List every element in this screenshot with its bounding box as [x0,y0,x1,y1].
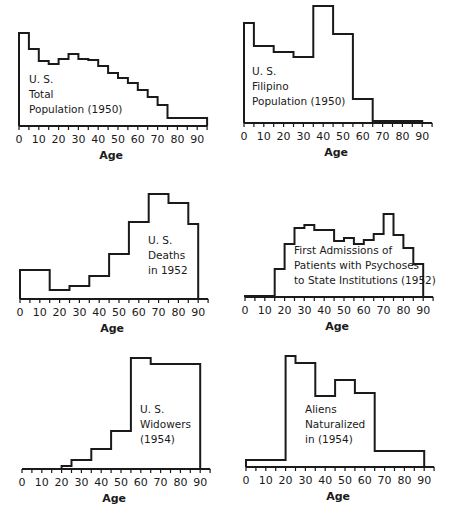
x-tick-label: 60 [357,304,371,317]
x-axis-title: Age [102,492,126,505]
x-tick-label: 90 [417,474,431,487]
x-tick-label: 50 [337,304,351,317]
chart-caption-line: (1954) [140,432,191,447]
x-axis-title: Age [325,320,349,333]
chart-caption-line: Deaths [148,248,188,263]
psychoses-admissions-histogram: 0102030405060708090AgeFirst Admissions o… [225,180,449,350]
x-tick-label: 10 [259,474,273,487]
x-tick-label: 50 [114,476,128,489]
x-tick-label: 0 [19,476,26,489]
x-tick-label: 40 [318,474,332,487]
us-widowers-histogram: 0102030405060708090AgeU. S.Widowers(1954… [0,350,224,519]
x-tick-label: 80 [170,133,184,146]
x-tick-label: 40 [316,130,330,143]
x-tick-label: 40 [91,133,105,146]
chart-caption-line: Widowers [140,417,191,432]
x-tick-label: 80 [397,474,411,487]
x-tick-label: 70 [154,476,168,489]
chart-caption-line: Filipino [252,79,345,94]
x-tick-label: 0 [243,474,250,487]
chart-caption-line: Naturalized [305,417,365,432]
x-tick-label: 30 [298,474,312,487]
chart-caption: U. S.FilipinoPopulation (1950) [252,64,345,109]
x-tick-label: 50 [111,133,125,146]
x-tick-label: 80 [396,304,410,317]
chart-caption: AliensNaturalizedin (1954) [305,402,365,447]
x-tick-label: 50 [336,130,350,143]
chart-caption-line: U. S. [148,233,188,248]
x-tick-label: 90 [416,304,430,317]
x-tick-label: 80 [171,306,185,319]
x-tick-label: 0 [241,130,248,143]
x-tick-label: 90 [191,306,205,319]
chart-caption-line: in 1952 [148,263,188,278]
x-tick-label: 10 [33,306,47,319]
x-axis-title: Age [100,322,124,335]
chart-caption-line: U. S. [29,72,122,87]
chart-caption-line: Population (1950) [29,102,122,117]
chart-caption-line: U. S. [140,402,191,417]
x-tick-label: 0 [16,133,23,146]
chart-caption-line: in (1954) [305,432,365,447]
x-tick-label: 30 [297,304,311,317]
us-filipino-population-histogram: 0102030405060708090AgeU. S.FilipinoPopul… [225,0,449,170]
us-total-population-histogram: 0102030405060708090AgeU. S.TotalPopulati… [0,0,224,170]
x-tick-label: 20 [278,304,292,317]
x-tick-label: 70 [377,304,391,317]
x-tick-label: 80 [173,476,187,489]
x-tick-label: 60 [358,474,372,487]
x-tick-label: 20 [53,306,67,319]
x-tick-label: 70 [378,474,392,487]
x-axis-title: Age [99,149,123,162]
chart-caption-line: Population (1950) [252,94,345,109]
x-tick-label: 50 [338,474,352,487]
x-tick-label: 30 [296,130,310,143]
x-tick-label: 30 [74,476,88,489]
x-tick-label: 80 [395,130,409,143]
x-tick-label: 0 [242,304,249,317]
x-tick-label: 40 [94,476,108,489]
chart-caption-line: Total [29,87,122,102]
chart-caption: U. S.Widowers(1954) [140,402,191,447]
x-axis-title: Age [326,490,350,503]
x-tick-label: 30 [72,306,86,319]
chart-caption-line: to State Institutions (1952) [294,273,436,288]
x-tick-label: 70 [151,133,165,146]
x-tick-label: 20 [55,476,69,489]
chart-caption-line: Patients with Psychoses [294,258,436,273]
chart-caption: First Admissions ofPatients with Psychos… [294,243,436,288]
chart-caption-line: Aliens [305,402,365,417]
us-deaths-histogram: 0102030405060708090AgeU. S.Deathsin 1952 [0,180,224,350]
x-tick-label: 20 [279,474,293,487]
x-axis-title: Age [324,146,348,159]
x-tick-label: 60 [132,306,146,319]
x-tick-label: 90 [415,130,429,143]
x-tick-label: 90 [190,133,204,146]
x-tick-label: 30 [71,133,85,146]
x-tick-label: 10 [258,304,272,317]
x-tick-label: 70 [152,306,166,319]
x-tick-label: 70 [376,130,390,143]
x-tick-label: 90 [193,476,207,489]
x-tick-label: 60 [356,130,370,143]
x-tick-label: 10 [35,476,49,489]
x-tick-label: 10 [257,130,271,143]
x-tick-label: 20 [52,133,66,146]
x-tick-label: 40 [92,306,106,319]
x-tick-label: 50 [112,306,126,319]
x-tick-label: 60 [134,476,148,489]
x-tick-label: 20 [277,130,291,143]
x-tick-label: 40 [317,304,331,317]
chart-caption-line: U. S. [252,64,345,79]
aliens-naturalized-histogram: 0102030405060708090AgeAliensNaturalizedi… [225,350,449,519]
chart-caption: U. S.TotalPopulation (1950) [29,72,122,117]
x-tick-label: 60 [131,133,145,146]
x-tick-label: 0 [17,306,24,319]
x-tick-label: 10 [32,133,46,146]
chart-caption-line: First Admissions of [294,243,436,258]
chart-caption: U. S.Deathsin 1952 [148,233,188,278]
